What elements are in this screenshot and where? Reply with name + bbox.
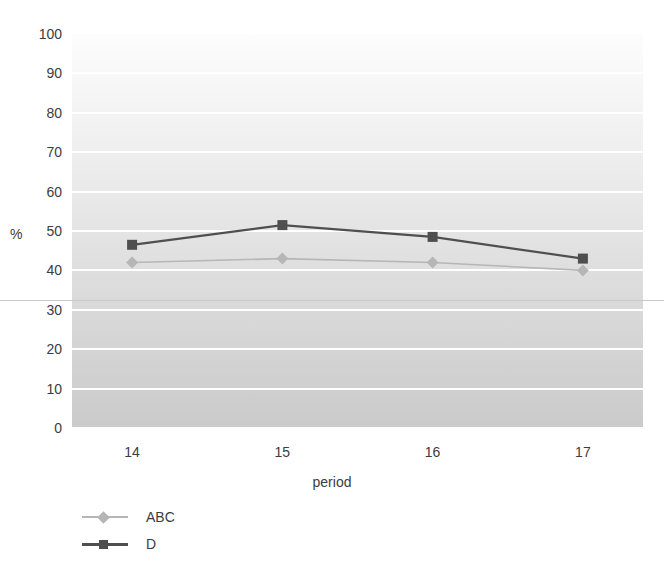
series-layer bbox=[72, 34, 643, 428]
diamond-marker-icon bbox=[276, 253, 288, 265]
y-axis-tick-label: 20 bbox=[10, 342, 62, 356]
y-axis-tick-label: 70 bbox=[10, 145, 62, 159]
y-axis-tick-label: 0 bbox=[10, 421, 62, 435]
chart-legend: ABCD bbox=[82, 503, 342, 557]
x-axis-tick-label: 14 bbox=[102, 444, 162, 460]
square-marker-icon bbox=[99, 540, 108, 549]
y-axis-tick-label: 30 bbox=[10, 303, 62, 317]
legend-label: ABC bbox=[146, 509, 175, 525]
y-axis-tick-label: 10 bbox=[10, 382, 62, 396]
reference-line bbox=[0, 300, 664, 301]
y-axis-tick-label: 40 bbox=[10, 263, 62, 277]
legend-label: D bbox=[146, 536, 156, 552]
series-line-d bbox=[132, 225, 583, 259]
square-marker-icon bbox=[277, 220, 287, 230]
line-chart: 1009080706050403020100 % period ABCD 141… bbox=[0, 0, 664, 570]
x-axis-tick-label: 16 bbox=[403, 444, 463, 460]
legend-item-abc[interactable]: ABC bbox=[82, 503, 342, 530]
y-axis-tick-label: 80 bbox=[10, 106, 62, 120]
square-marker-icon bbox=[428, 232, 438, 242]
diamond-marker-icon bbox=[126, 257, 138, 269]
square-marker-icon bbox=[127, 240, 137, 250]
diamond-marker-icon bbox=[97, 511, 110, 524]
series-line-abc bbox=[132, 259, 583, 271]
legend-item-d[interactable]: D bbox=[82, 530, 342, 557]
x-axis-title: period bbox=[0, 474, 664, 490]
y-axis-title: % bbox=[10, 226, 22, 242]
legend-key bbox=[82, 537, 128, 551]
square-marker-icon bbox=[578, 254, 588, 264]
y-axis-tick-label: 100 bbox=[10, 27, 62, 41]
diamond-marker-icon bbox=[427, 257, 439, 269]
y-axis-tick-label: 90 bbox=[10, 66, 62, 80]
diamond-marker-icon bbox=[577, 264, 589, 276]
legend-key bbox=[82, 510, 128, 524]
plot-area bbox=[72, 34, 643, 428]
y-axis-tick-label: 60 bbox=[10, 185, 62, 199]
x-axis-tick-label: 15 bbox=[252, 444, 312, 460]
x-axis-tick-label: 17 bbox=[553, 444, 613, 460]
